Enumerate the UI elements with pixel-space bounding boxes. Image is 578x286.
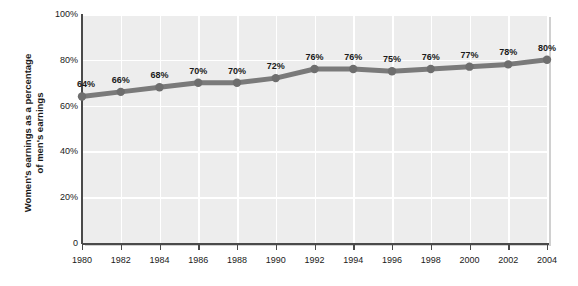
x-axis-tick [237, 244, 238, 250]
chart-container: Women's earnings as a percentage of men'… [0, 0, 578, 286]
plot-area [82, 14, 548, 243]
y-axis-title-line-1: Women's earnings as a percentage [22, 54, 34, 212]
x-axis-tick-label: 1988 [227, 255, 247, 265]
x-axis-tick-label: 1992 [304, 255, 324, 265]
x-axis-tick-label: 1984 [149, 255, 169, 265]
x-axis-tick-label: 1990 [266, 255, 286, 265]
x-axis-tick [353, 244, 354, 250]
vertical-gridline [470, 14, 472, 243]
data-point-label: 72% [267, 61, 285, 71]
x-axis-tick-label: 1996 [382, 255, 402, 265]
x-axis-tick [82, 244, 83, 250]
x-axis-tick-label: 2002 [498, 255, 518, 265]
y-axis-tick-label: 60% [38, 101, 78, 111]
vertical-gridline [276, 14, 278, 243]
x-axis-tick [431, 244, 432, 250]
x-axis-tick-label: 1986 [188, 255, 208, 265]
data-point-label: 75% [383, 54, 401, 64]
x-axis-tick [315, 244, 316, 250]
y-axis-tick-label: 0 [38, 238, 78, 248]
data-point-label: 78% [499, 47, 517, 57]
data-point-label: 68% [150, 70, 168, 80]
data-point-label: 70% [228, 66, 246, 76]
x-axis-tick [508, 244, 509, 250]
x-axis-tick-label: 1982 [111, 255, 131, 265]
y-axis-tick-labels: 020%40%60%80%100% [38, 0, 78, 286]
x-axis-tick [276, 244, 277, 250]
x-axis-tick [392, 244, 393, 250]
y-axis-tick-label: 40% [38, 146, 78, 156]
data-point-label: 76% [344, 52, 362, 62]
x-axis-tick [121, 244, 122, 250]
x-axis-tick-label: 2004 [537, 255, 557, 265]
x-axis-tick-label: 1994 [343, 255, 363, 265]
data-point-label: 70% [189, 66, 207, 76]
vertical-gridline [121, 14, 123, 243]
y-axis-line [81, 14, 83, 244]
x-axis-tick [198, 244, 199, 250]
x-axis-tick-label: 2000 [459, 255, 479, 265]
vertical-gridline [237, 14, 239, 243]
vertical-gridline [431, 14, 433, 243]
vertical-gridline [353, 14, 355, 243]
y-axis-tick-label: 80% [38, 55, 78, 65]
x-axis-tick-label: 1980 [72, 255, 92, 265]
data-point-label: 64% [77, 79, 95, 89]
vertical-gridline [392, 14, 394, 243]
vertical-gridline [198, 14, 200, 243]
vertical-gridline [315, 14, 317, 243]
x-axis-tick [160, 244, 161, 250]
data-point-label: 76% [422, 52, 440, 62]
x-axis-tick [470, 244, 471, 250]
x-axis-tick-label: 1998 [421, 255, 441, 265]
y-axis-tick-label: 100% [38, 9, 78, 19]
vertical-gridline [160, 14, 162, 243]
data-point-label: 77% [460, 50, 478, 60]
data-point-label: 66% [112, 75, 130, 85]
data-point-label: 80% [538, 43, 556, 53]
y-axis-tick-label: 20% [38, 192, 78, 202]
x-axis-tick [547, 244, 548, 250]
data-point-label: 76% [305, 52, 323, 62]
